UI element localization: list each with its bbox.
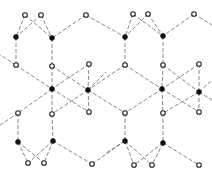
open-node-icon [197, 62, 202, 67]
edge [16, 65, 52, 89]
open-node-icon [132, 163, 137, 168]
open-node-icon [50, 112, 55, 117]
open-node-icon [123, 63, 128, 68]
edge [52, 15, 86, 38]
filled-node-icon [50, 87, 55, 92]
edge [106, 141, 125, 153]
edge [16, 15, 41, 37]
edge [125, 65, 162, 89]
filled-node-icon [123, 139, 128, 144]
open-node-icon [192, 12, 197, 17]
filled-node-icon [161, 141, 166, 146]
filled-node-icon [161, 34, 166, 39]
filled-node-icon [86, 88, 91, 93]
open-node-icon [161, 63, 166, 68]
edge [18, 142, 44, 163]
edge [88, 65, 125, 90]
filled-node-icon [197, 90, 202, 95]
edge [125, 89, 162, 113]
edge [88, 72, 106, 90]
open-node-icon [197, 110, 202, 115]
edge [53, 141, 92, 164]
open-node-icon [161, 111, 166, 116]
open-node-icon [90, 162, 95, 167]
edge [88, 90, 125, 113]
node-layer [14, 12, 202, 168]
filled-node-icon [51, 139, 56, 144]
edge [44, 141, 53, 163]
open-node-icon [150, 163, 155, 168]
filled-node-icon [14, 35, 19, 40]
open-node-icon [16, 111, 21, 116]
open-node-icon [123, 111, 128, 116]
open-node-icon [87, 110, 92, 115]
filled-node-icon [50, 36, 55, 41]
edge [18, 142, 28, 163]
edge-layer [0, 14, 212, 165]
filled-node-icon [16, 140, 21, 145]
edge [125, 14, 148, 37]
open-node-icon [23, 13, 28, 18]
edge [18, 89, 52, 113]
open-node-icon [84, 13, 89, 18]
lattice-diagram [0, 0, 212, 171]
open-node-icon [50, 64, 55, 69]
edge [163, 65, 199, 92]
edge [86, 15, 125, 37]
edge [152, 143, 163, 165]
edge [162, 89, 199, 112]
edge [163, 14, 194, 36]
edge [148, 14, 163, 36]
edge [25, 15, 52, 38]
edge [125, 141, 134, 165]
edge [52, 90, 88, 114]
edge [194, 14, 212, 25]
edge [16, 15, 25, 37]
open-node-icon [131, 12, 136, 17]
open-node-icon [197, 163, 202, 168]
edge [52, 89, 89, 112]
edge [88, 64, 89, 90]
edge [0, 113, 18, 125]
edge [162, 65, 163, 89]
open-node-icon [14, 63, 19, 68]
open-node-icon [87, 62, 92, 67]
edge [162, 89, 163, 113]
filled-node-icon [160, 87, 165, 92]
open-node-icon [42, 161, 47, 166]
edge [52, 66, 88, 90]
edge [52, 64, 89, 89]
filled-node-icon [123, 35, 128, 40]
open-node-icon [26, 161, 31, 166]
edge [162, 64, 199, 89]
edge [163, 143, 199, 165]
edge [52, 114, 53, 141]
edge [88, 90, 89, 112]
edge [163, 92, 199, 113]
open-node-icon [146, 12, 151, 17]
open-node-icon [39, 13, 44, 18]
edge [28, 141, 53, 163]
edge [41, 15, 52, 38]
